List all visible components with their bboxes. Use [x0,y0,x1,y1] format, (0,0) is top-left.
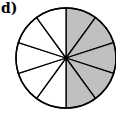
center-point [64,56,68,60]
fraction-circle [0,0,116,113]
